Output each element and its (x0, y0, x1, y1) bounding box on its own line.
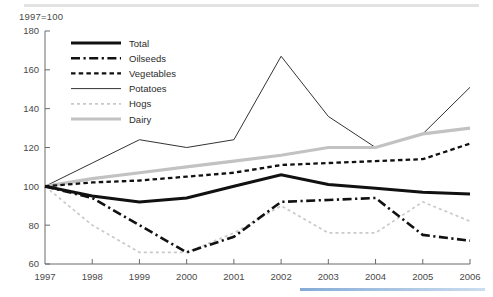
legend-layer: TotalOilseedsVegetablesPotatoesHogsDairy (71, 38, 176, 125)
y-axis-tick-label: 100 (23, 181, 39, 192)
legend-label-dairy: Dairy (129, 114, 151, 125)
x-axis-tick-label: 1998 (82, 271, 103, 282)
x-axis-tick-label: 2003 (318, 271, 339, 282)
legend-label-total: Total (129, 38, 149, 49)
legend-label-potatoes: Potatoes (129, 83, 167, 94)
y-axis-tick-label: 160 (23, 64, 39, 75)
series-line-dairy (45, 128, 470, 186)
x-axis-tick-label: 2004 (365, 271, 386, 282)
legend-label-hogs: Hogs (129, 98, 151, 109)
series-line-potatoes (45, 56, 470, 186)
y-axis-tick-label: 180 (23, 25, 39, 36)
x-axis-tick-label: 2005 (412, 271, 433, 282)
legend-label-vegetables: Vegetables (129, 68, 176, 79)
x-axis-tick-label: 2000 (176, 271, 197, 282)
y-axis-tick-label: 60 (28, 258, 39, 269)
chart-container: 1997=100 6080100120140160180199719981999… (0, 0, 493, 297)
x-axis-tick-label: 1997 (34, 271, 55, 282)
x-axis-tick-label: 2006 (459, 271, 480, 282)
axes-layer: 6080100120140160180199719981999200020012… (23, 25, 480, 282)
y-axis-tick-label: 120 (23, 142, 39, 153)
series-line-oilseeds (45, 186, 470, 252)
y-axis-tick-label: 140 (23, 103, 39, 114)
x-axis-tick-label: 1999 (129, 271, 150, 282)
line-chart-plot: 6080100120140160180199719981999200020012… (0, 0, 493, 297)
series-line-total (45, 175, 470, 202)
x-axis-tick-label: 2001 (223, 271, 244, 282)
legend-label-oilseeds: Oilseeds (129, 53, 166, 64)
x-axis-tick-label: 2002 (271, 271, 292, 282)
bottom-accent-rule (300, 288, 485, 291)
y-axis-tick-label: 80 (28, 220, 39, 231)
series-layer (45, 56, 470, 252)
